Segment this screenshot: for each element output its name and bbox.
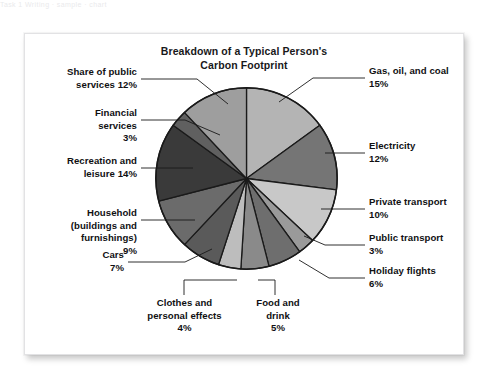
label-recreation-and-leisure: Recreation and leisure 14% <box>27 155 137 180</box>
leader-clothes <box>184 280 237 295</box>
leader-cars <box>128 249 212 262</box>
label-holiday-flights: Holiday flights 6% <box>369 265 465 290</box>
chart-card: Breakdown of a Typical Person's Carbon F… <box>24 33 464 355</box>
label-cars: Cars 7% <box>37 249 124 274</box>
label-electricity: Electricity 12% <box>369 140 465 165</box>
leader-public-transport <box>304 236 365 245</box>
leader-food-drink <box>258 280 275 295</box>
label-clothes-and-personal-effects: Clothes and personal effects 4% <box>128 297 241 335</box>
label-financial-services: Financial services 3% <box>31 107 137 145</box>
label-public-transport: Public transport 3% <box>369 232 465 257</box>
leader-holiday-flights <box>299 260 365 278</box>
leader-public-services <box>141 79 228 104</box>
label-gas-oil-and-coal: Gas, oil, and coal 15% <box>369 65 465 90</box>
leader-financial-services <box>141 120 220 135</box>
label-share-of-public-services: Share of public services 12% <box>31 66 137 91</box>
pie-chart-figure: Breakdown of a Typical Person's Carbon F… <box>25 34 463 354</box>
scan-artifact-text: Task 1 Writing · sample · chart <box>0 0 494 14</box>
label-private-transport: Private transport 10% <box>369 196 465 221</box>
label-food-and-drink: Food and drink 5% <box>243 297 313 335</box>
leader-gas-oil-coal <box>279 78 365 102</box>
